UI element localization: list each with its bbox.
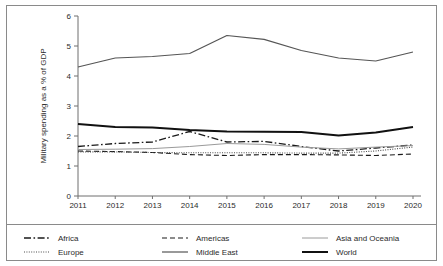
- y-axis-tick-label: 1: [67, 162, 72, 171]
- y-axis-tick-label: 0: [67, 192, 72, 201]
- legend-item-world[interactable]: World: [302, 248, 357, 257]
- x-axis-tick-label: 2018: [330, 201, 348, 210]
- x-axis-tick-label: 2013: [144, 201, 162, 210]
- legend-item-africa[interactable]: Africa: [24, 234, 79, 243]
- x-axis-tick-label: 2019: [367, 201, 385, 210]
- legend-label-europe: Europe: [58, 248, 84, 257]
- chart-figure: 0123456Military spending as a % of GDP20…: [0, 0, 443, 266]
- legend-label-middle-east: Middle East: [196, 248, 239, 257]
- x-axis-tick-label: 2014: [181, 201, 199, 210]
- y-axis-tick-label: 2: [67, 132, 72, 141]
- series-group: [78, 36, 413, 156]
- legend-label-americas: Americas: [196, 234, 229, 243]
- legend-item-europe[interactable]: Europe: [24, 248, 84, 257]
- legend: AfricaEuropeAmericasMiddle EastAsia and …: [24, 234, 400, 257]
- x-axis-tick-label: 2011: [69, 201, 87, 210]
- x-axis-tick-label: 2012: [106, 201, 124, 210]
- y-axis-title: Military spending as a % of GDP: [39, 48, 48, 163]
- y-axis-tick-label: 4: [67, 72, 72, 81]
- legend-label-africa: Africa: [58, 234, 79, 243]
- series-line-americas: [78, 151, 413, 156]
- x-axis: 2011201220132014201520162017201820192020: [69, 196, 422, 210]
- legend-item-americas[interactable]: Americas: [162, 234, 229, 243]
- x-axis-tick-label: 2017: [292, 201, 310, 210]
- series-line-middle-east: [78, 36, 413, 68]
- legend-label-asia-and-oceania: Asia and Oceania: [336, 234, 400, 243]
- legend-label-world: World: [336, 248, 357, 257]
- y-axis-tick-label: 6: [67, 12, 72, 21]
- y-axis: 0123456: [67, 12, 78, 201]
- legend-item-asia-and-oceania[interactable]: Asia and Oceania: [302, 234, 400, 243]
- series-line-world: [78, 124, 413, 135]
- x-axis-tick-label: 2015: [218, 201, 236, 210]
- legend-item-middle-east[interactable]: Middle East: [162, 248, 239, 257]
- line-chart: 0123456Military spending as a % of GDP20…: [0, 0, 443, 266]
- x-axis-tick-label: 2016: [255, 201, 273, 210]
- y-axis-tick-label: 5: [67, 42, 72, 51]
- y-axis-tick-label: 3: [67, 102, 72, 111]
- x-axis-tick-label: 2020: [404, 201, 422, 210]
